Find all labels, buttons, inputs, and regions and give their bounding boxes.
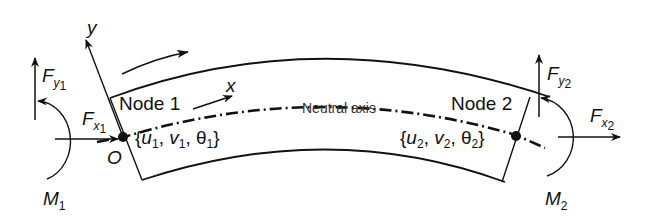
node1-dof: {u1, v1, θ1} <box>135 127 220 151</box>
origin-label: O <box>107 147 122 168</box>
direction-arrow-icon <box>122 52 188 74</box>
beam-body <box>110 59 550 182</box>
fx2-label: Fx2 <box>590 105 615 133</box>
node2-dof: {u2, v2, θ2} <box>400 127 485 151</box>
fy1-label: Fy1 <box>42 65 67 93</box>
fy2-label: Fy2 <box>547 63 572 91</box>
x-axis-label: x <box>225 75 237 96</box>
beam-bottom-edge <box>142 149 505 182</box>
y-axis-label: y <box>85 17 98 38</box>
m2-label: M2 <box>545 188 568 213</box>
m1-moment-arrow <box>38 101 70 179</box>
node2-loads: Fy2 Fx2 M2 <box>539 55 620 213</box>
m1-label: M1 <box>43 188 66 213</box>
neutral-axis-label: Neutral axis <box>302 100 376 116</box>
curved-beam-diagram: y x Node 1 Node 2 Neutral axis O {u1, v1… <box>0 0 652 222</box>
node2-label: Node 2 <box>451 93 512 114</box>
node1-point <box>118 132 128 142</box>
node2-point <box>511 131 521 141</box>
x-axis-arrow <box>193 96 232 109</box>
fx1-label: Fx1 <box>82 108 107 136</box>
node1-loads: Fy1 Fx1 M1 <box>35 58 118 213</box>
node1-label: Node 1 <box>119 93 180 114</box>
